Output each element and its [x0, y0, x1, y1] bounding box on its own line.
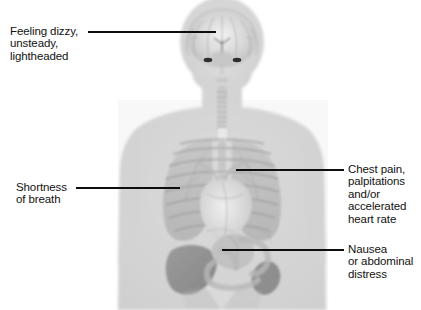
callout-label-dizziness: Feeling dizzy, unsteady, lightheaded: [10, 25, 90, 62]
brain: [186, 9, 257, 67]
leader-line-nausea: [222, 249, 344, 251]
callout-label-nausea: Nausea or abdominal distress: [348, 243, 420, 280]
leader-line-dizziness: [88, 31, 216, 33]
callout-label-shortness-of-breath: Shortness of breath: [16, 181, 84, 206]
symptoms-body-diagram: Feeling dizzy, unsteady, lightheaded Sho…: [0, 0, 421, 310]
leader-line-shortness-of-breath: [76, 187, 180, 189]
leader-line-chest-pain: [236, 169, 344, 171]
callout-label-chest-pain: Chest pain, palpitations and/or accelera…: [348, 163, 420, 225]
